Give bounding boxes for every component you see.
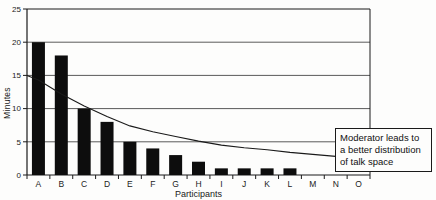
bar-L: [283, 168, 296, 175]
x-category-label-I: I: [220, 179, 222, 189]
bar-J: [238, 168, 251, 175]
x-category-label-L: L: [288, 179, 293, 189]
bar-A: [32, 42, 45, 175]
x-axis-title: Participants: [27, 189, 370, 199]
bar-I: [215, 168, 228, 175]
y-tick-label-20: 20: [12, 38, 21, 47]
y-tick-label-0: 0: [17, 171, 22, 180]
x-category-label-M: M: [309, 179, 316, 189]
y-tick-label-15: 15: [12, 71, 21, 80]
x-category-label-K: K: [264, 179, 270, 189]
x-category-label-A: A: [36, 179, 42, 189]
talk-space-bar-chart: 0510152025ABCDEFGHIJKLMNO Minutes Partic…: [0, 0, 436, 200]
y-tick-label-10: 10: [12, 104, 21, 113]
distribution-line: [27, 75, 359, 158]
x-category-label-H: H: [195, 179, 201, 189]
bar-B: [55, 55, 68, 175]
x-category-label-E: E: [127, 179, 133, 189]
annotation-line-1: Moderator leads to: [340, 132, 428, 144]
x-category-label-C: C: [81, 179, 87, 189]
y-tick-label-25: 25: [12, 5, 21, 14]
bar-K: [261, 168, 274, 175]
annotation-line-2: a better distribution: [340, 144, 428, 156]
bar-D: [101, 122, 114, 175]
bar-E: [123, 142, 136, 175]
y-axis-title: Minutes: [2, 73, 12, 133]
x-category-label-D: D: [104, 179, 110, 189]
x-category-label-N: N: [333, 179, 339, 189]
bar-H: [192, 162, 205, 175]
y-tick-label-5: 5: [17, 138, 22, 147]
bar-G: [169, 155, 182, 175]
bar-C: [78, 109, 91, 175]
x-category-label-G: G: [172, 179, 179, 189]
bar-F: [146, 148, 159, 175]
annotation-box: Moderator leads to a better distribution…: [335, 128, 432, 172]
x-category-label-J: J: [242, 179, 246, 189]
x-category-label-F: F: [150, 179, 155, 189]
x-category-label-O: O: [355, 179, 362, 189]
annotation-line-3: of talk space: [340, 156, 428, 168]
x-category-label-B: B: [58, 179, 64, 189]
